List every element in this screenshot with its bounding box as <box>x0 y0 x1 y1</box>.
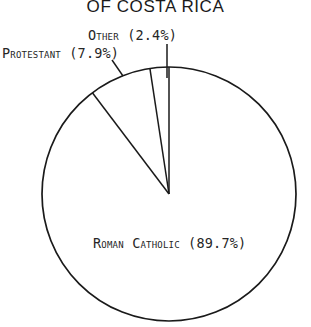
slice-divider-other-protestant <box>150 68 169 194</box>
slice-divider-protestant-catholic <box>92 93 169 194</box>
slice-label-protestant: Protestant (7.9%) <box>2 45 119 61</box>
leader-line-protestant <box>112 60 123 76</box>
slice-label-other: Other (2.4%) <box>88 27 177 43</box>
slice-label-roman-catholic: Roman Catholic (89.7%) <box>93 235 246 251</box>
pie-chart-page: OF COSTA RICA Other (2.4%) Protestant (7… <box>0 0 311 327</box>
